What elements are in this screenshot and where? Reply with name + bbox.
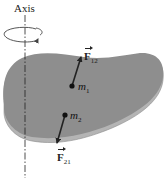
force-f21-subscript: 21 — [64, 158, 71, 166]
force-f12-label: F12 — [84, 51, 98, 65]
mass-m2-point — [62, 112, 67, 117]
disk-top-face — [4, 53, 164, 138]
rotation-arrow-back-icon — [36, 28, 42, 35]
force-f21-symbol: F — [57, 152, 64, 163]
force-f12-symbol: F — [84, 51, 91, 62]
mass-m2-symbol: m — [70, 109, 78, 121]
mass-m2-label: m2 — [70, 110, 81, 124]
mass-m2-subscript: 2 — [78, 116, 82, 124]
mass-m1-symbol: m — [78, 80, 86, 92]
rotation-arrow-icon — [4, 27, 38, 42]
mass-m1-subscript: 1 — [86, 87, 90, 95]
force-f21-label: F21 — [57, 152, 71, 166]
force-f12-subscript: 12 — [91, 57, 98, 65]
mass-m1-label: m1 — [78, 81, 89, 95]
mass-m1-point — [69, 83, 74, 88]
axis-label: Axis — [14, 3, 35, 14]
